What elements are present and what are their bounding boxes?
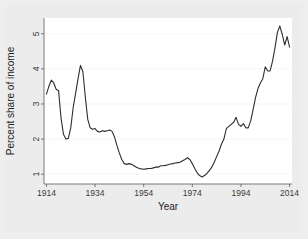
y-tick-label: 5 — [31, 31, 41, 36]
x-tick-label: 2014 — [280, 188, 299, 198]
x-tick-label: 1974 — [183, 188, 202, 198]
y-tick-label: 1 — [31, 172, 41, 177]
x-tick-label: 1934 — [86, 188, 105, 198]
y-tick-label: 3 — [31, 101, 41, 106]
x-tick-label: 1954 — [134, 188, 153, 198]
plot-wrapper: 12345 191419341954197419942014 Year Perc… — [0, 0, 308, 239]
x-tick-label: 1994 — [231, 188, 250, 198]
x-tick-label: 1914 — [37, 188, 56, 198]
line-chart-svg: 12345 191419341954197419942014 Year Perc… — [0, 0, 308, 239]
x-axis-ticks-group: 191419341954197419942014 — [37, 184, 299, 198]
y-tick-label: 2 — [31, 136, 41, 141]
y-tick-label: 4 — [31, 66, 41, 71]
y-axis-ticks-group: 12345 — [31, 31, 44, 176]
y-axis-title: Percent share of income — [5, 46, 16, 155]
x-axis-title: Year — [158, 201, 179, 212]
chart-figure: 12345 191419341954197419942014 Year Perc… — [0, 0, 308, 239]
